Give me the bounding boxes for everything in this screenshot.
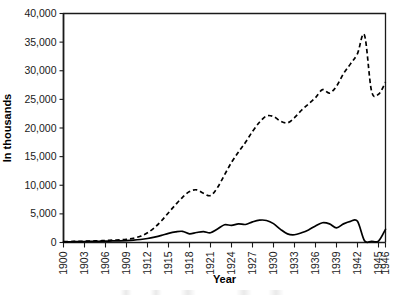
series-line-solid-series [64,220,386,243]
x-tick-label: 1912 [141,251,153,275]
x-tick-label: 1942 [351,251,363,275]
x-tick-label: 1946 [379,251,391,275]
x-tick-label: 1903 [78,251,90,275]
x-axis-title-text: Year [213,273,237,285]
series-line-dashed-series [64,34,386,242]
y-tick-label: 40,000 [24,7,56,19]
y-tick-label: 30,000 [24,64,56,76]
x-tick-label: 1906 [99,251,111,275]
x-tick-label: 1933 [288,251,300,275]
x-tick-label: 1900 [57,251,69,275]
plot-border [64,14,386,243]
data-series [64,34,386,242]
x-tick-label: 1939 [330,251,342,275]
x-tick-label: 1921 [204,251,216,275]
line-chart: 05,00010,00015,00020,00025,00030,00035,0… [0,0,404,295]
x-tick-label: 1915 [162,251,174,275]
caption-cutoff-artifact [0,290,404,295]
x-tick-label: 1936 [309,251,321,275]
y-axis-title: In thousands [1,94,13,162]
y-axis-ticks: 05,00010,00015,00020,00025,00030,00035,0… [24,7,63,248]
x-tick-label: 1930 [267,251,279,275]
y-tick-label: 35,000 [24,36,56,48]
plot-frame [64,14,386,243]
y-tick-label: 20,000 [24,122,56,134]
x-axis-title: Year [213,273,237,285]
x-tick-label: 1927 [246,251,258,275]
x-tick-label: 1924 [225,251,237,275]
x-tick-label: 1909 [120,251,132,275]
y-tick-label: 15,000 [24,150,56,162]
y-tick-label: 10,000 [24,179,56,191]
chart-container: 05,00010,00015,00020,00025,00030,00035,0… [0,0,404,295]
x-tick-label: 1918 [183,251,195,275]
y-tick-label: 25,000 [24,93,56,105]
y-axis-title-text: In thousands [1,94,13,162]
y-tick-label: 5,000 [30,207,56,219]
y-tick-label: 0 [51,236,57,248]
x-axis-ticks: 1900190319061909191219151918192119241927… [57,243,391,275]
